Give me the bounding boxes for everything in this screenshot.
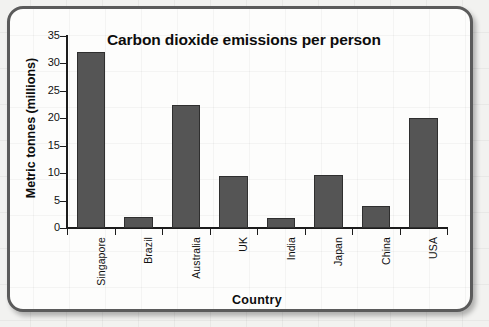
y-tick-label: 20 (22, 112, 60, 124)
x-tick-label-india: India (285, 237, 297, 260)
bar-chart: Carbon dioxide emissions per person Metr… (10, 9, 470, 309)
y-tick-mark (60, 201, 67, 202)
x-tick-mark (115, 229, 116, 235)
y-tick-mark (60, 118, 67, 119)
x-tick-label-china: China (380, 237, 392, 265)
y-tick-label-text: 15 (34, 140, 60, 151)
x-tick-mark (210, 229, 211, 235)
bar-australia (172, 105, 201, 228)
y-tick-label: 15 (22, 140, 60, 152)
x-tick-mark (400, 229, 401, 235)
y-tick-mark (60, 228, 67, 229)
x-tick-label-brazil: Brazil (142, 237, 154, 264)
x-tick-mark (447, 229, 448, 235)
plot-area (67, 36, 447, 228)
y-tick-label-text: 10 (34, 167, 60, 178)
y-tick-mark (60, 63, 67, 64)
y-tick-label-text: 0 (34, 222, 60, 233)
figure-frame: Carbon dioxide emissions per person Metr… (7, 6, 473, 312)
bar-india (267, 218, 296, 228)
y-tick-label-text: 5 (34, 195, 60, 206)
x-tick-mark (67, 229, 68, 235)
bar-uk (219, 176, 248, 228)
y-tick-label: 5 (22, 195, 60, 207)
y-tick-label-text: 25 (34, 85, 60, 96)
x-tick-label-uk: UK (237, 237, 249, 252)
y-tick-label: 25 (22, 85, 60, 97)
x-tick-label-japan: Japan (332, 237, 344, 266)
bar-singapore (77, 52, 106, 228)
x-axis-title: Country (67, 293, 447, 307)
x-tick-mark (305, 229, 306, 235)
x-tick-mark (162, 229, 163, 235)
page-background: Carbon dioxide emissions per person Metr… (0, 0, 489, 327)
y-tick-label: 35 (22, 30, 60, 42)
y-tick-label-text: 20 (34, 112, 60, 123)
bar-japan (314, 175, 343, 228)
y-tick-mark (60, 36, 67, 37)
y-tick-mark (60, 146, 67, 147)
y-tick-label-text: 30 (34, 57, 60, 68)
y-tick-label: 10 (22, 167, 60, 179)
y-tick-mark (60, 173, 67, 174)
bar-usa (409, 118, 438, 228)
x-tick-mark (352, 229, 353, 235)
x-tick-label-usa: USA (427, 237, 439, 259)
y-tick-label: 30 (22, 57, 60, 69)
x-tick-label-singapore: Singapore (95, 237, 107, 286)
y-tick-label-text: 35 (34, 30, 60, 41)
bar-china (362, 206, 391, 228)
x-tick-mark (257, 229, 258, 235)
y-tick-label: 0 (22, 222, 60, 234)
y-tick-mark (60, 91, 67, 92)
bar-brazil (124, 217, 153, 228)
x-tick-label-australia: Australia (190, 237, 202, 279)
